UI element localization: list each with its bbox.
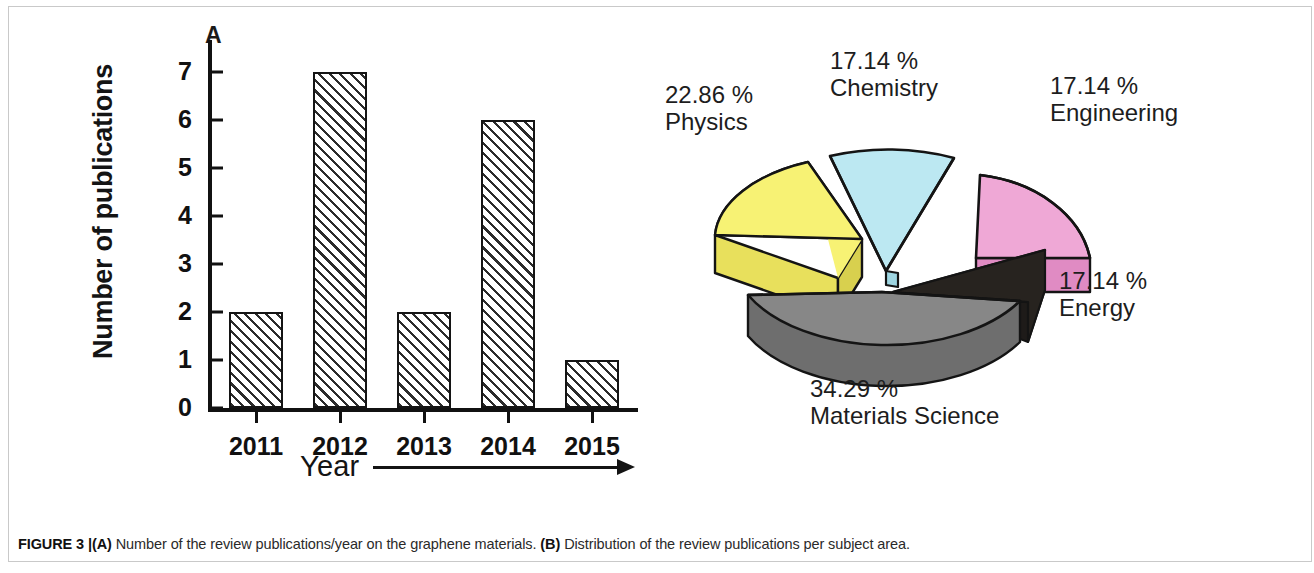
- panel-b-pie-chart: B: [680, 0, 1314, 510]
- x-tick-2015: [591, 412, 594, 423]
- x-tick-2014: [507, 412, 510, 423]
- pie-label-materials-science: 34.29 % Materials Science: [810, 376, 999, 430]
- bar-2014: [481, 120, 535, 408]
- figure-root: A Number of publications 01234567 201120…: [0, 0, 1314, 573]
- pie-label-chemistry-name: Chemistry: [830, 75, 938, 102]
- y-tick-label-2: 2: [178, 299, 192, 324]
- pie-label-engineering: 17.14 % Engineering: [1050, 73, 1178, 127]
- bar-2013: [397, 312, 451, 408]
- y-tick-label-6: 6: [178, 107, 192, 132]
- panel-a-bar-chart: A Number of publications 01234567 201120…: [0, 0, 680, 510]
- pie-label-energy-pct: 17.14 %: [1059, 268, 1147, 295]
- y-tick-label-4: 4: [178, 203, 192, 228]
- pie-label-engineering-pct: 17.14 %: [1050, 73, 1178, 100]
- figure-caption: FIGURE 3 |(A) Number of the review publi…: [18, 535, 1298, 555]
- y-tick-label-1: 1: [178, 347, 192, 372]
- bar-2012: [313, 72, 367, 408]
- pie-label-energy-name: Energy: [1059, 295, 1147, 322]
- caption-b-text: Distribution of the review publications …: [560, 536, 910, 552]
- pie-label-energy: 17.14 % Energy: [1059, 268, 1147, 322]
- x-tick-2011: [255, 412, 258, 423]
- x-axis-arrow-icon: [373, 457, 635, 477]
- bar-2011: [229, 312, 283, 408]
- pie-label-chemistry: 17.14 % Chemistry: [830, 48, 938, 102]
- y-axis-title: Number of publications: [88, 47, 119, 377]
- pie-label-engineering-name: Engineering: [1050, 100, 1178, 127]
- x-tick-2013: [423, 412, 426, 423]
- caption-a-tag: (A): [92, 536, 112, 552]
- x-tick-2012: [339, 412, 342, 423]
- pie-chart-3d: [690, 80, 1160, 410]
- y-tick-label-7: 7: [178, 59, 192, 84]
- x-axis-title: Year: [300, 450, 359, 483]
- pie-slice-materials-science: [748, 292, 1020, 386]
- caption-b-tag: (B): [540, 536, 560, 552]
- bar-chart-plot-area: 01234567 20112012201320142015: [208, 40, 628, 412]
- y-tick-label-5: 5: [178, 155, 192, 180]
- y-tick-label-3: 3: [178, 251, 192, 276]
- caption-a-text: Number of the review publications/year o…: [112, 536, 541, 552]
- pie-label-physics-name: Physics: [665, 109, 753, 136]
- pie-label-materials-science-name: Materials Science: [810, 403, 999, 430]
- pie-label-physics: 22.86 % Physics: [665, 82, 753, 136]
- pie-label-chemistry-pct: 17.14 %: [830, 48, 938, 75]
- bar-2015: [565, 360, 619, 408]
- caption-figure-number: FIGURE 3 |: [18, 536, 92, 552]
- y-tick-label-0: 0: [178, 395, 192, 420]
- x-axis-caption: Year: [300, 450, 635, 483]
- pie-label-materials-science-pct: 34.29 %: [810, 376, 999, 403]
- y-axis-line: [208, 40, 212, 412]
- pie-label-physics-pct: 22.86 %: [665, 82, 753, 109]
- x-tick-label-2011: 2011: [229, 432, 283, 461]
